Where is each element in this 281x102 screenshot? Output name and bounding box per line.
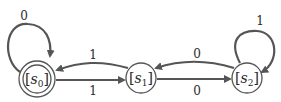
- state-s0: [s0]: [19, 61, 55, 97]
- transition-label: 1: [89, 48, 97, 62]
- transition-s1-s0: 1: [57, 48, 128, 70]
- transition-s2-s2: 1: [235, 14, 274, 72]
- transition-s0-s1: 1: [56, 80, 124, 98]
- transition-label: 0: [20, 9, 28, 23]
- transition-label: 1: [256, 14, 264, 28]
- state-label: [s0]: [25, 71, 49, 89]
- transition-label: 0: [193, 84, 201, 98]
- state-label: [s2]: [235, 70, 259, 88]
- transition-s1-s2: 0: [157, 79, 230, 98]
- transition-s2-s1: 0: [156, 47, 234, 68]
- state-label: [s1]: [129, 70, 153, 88]
- transition-label: 0: [193, 47, 201, 61]
- state-s2: [s2]: [232, 63, 262, 93]
- state-s1: [s1]: [126, 63, 156, 93]
- state-diagram: 0 1 1 0 0 1 [s0] [s1] [s2]: [0, 0, 281, 102]
- transition-label: 1: [89, 84, 97, 98]
